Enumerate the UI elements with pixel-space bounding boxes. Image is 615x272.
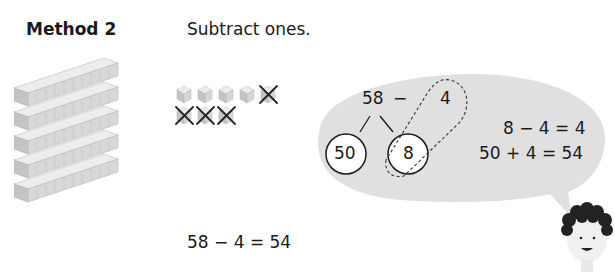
- partition-tens: 50: [334, 143, 356, 163]
- expression-right: 4: [440, 88, 451, 108]
- partition-ones: 8: [403, 143, 414, 163]
- step1-equation: 8 − 4 = 4: [503, 118, 586, 138]
- final-equation: 58 − 4 = 54: [187, 232, 291, 252]
- expression-left: 58: [362, 88, 384, 108]
- ones-cubes-illustration: [175, 84, 285, 129]
- step2-equation: 50 + 4 = 54: [479, 143, 583, 163]
- child-avatar: [555, 198, 615, 272]
- method-title: Method 2: [26, 19, 116, 39]
- tens-rods-illustration: [14, 58, 134, 228]
- instruction-text: Subtract ones.: [187, 19, 311, 39]
- expression-operator: −: [393, 88, 407, 108]
